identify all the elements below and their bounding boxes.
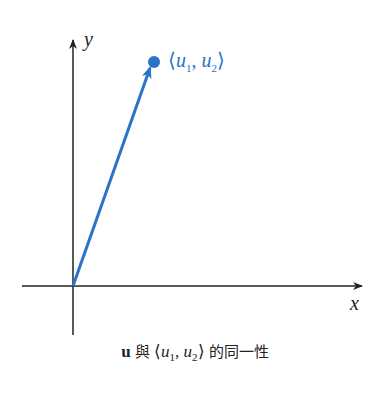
point-label: ⟨u1, u2⟩ (168, 48, 225, 74)
figure-caption: u 與 ⟨u1, u2⟩ 的同一性 (0, 340, 390, 363)
x-axis-label: x (350, 292, 359, 315)
point-u1-u2 (148, 56, 160, 68)
vector-u (73, 68, 150, 286)
y-axis-label: y (84, 28, 93, 51)
